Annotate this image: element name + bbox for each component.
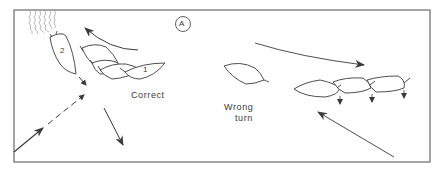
curved-arrow-top-right: [255, 43, 364, 65]
sailing-diagram-panel: A 2 1 Correct Wrong turn: [0, 0, 444, 172]
boat-wrong-single: [224, 63, 269, 84]
boat-sequence-wrong: [294, 76, 410, 97]
arrow-boat-2-heading: [79, 77, 86, 85]
label-turn: turn: [235, 113, 253, 123]
panel-label: A: [179, 19, 184, 29]
boat-2-number: 2: [60, 47, 64, 55]
approach-arrow: [14, 95, 84, 152]
diagram-canvas: [0, 0, 444, 172]
long-arrow-up-left: [318, 112, 394, 157]
label-wrong: Wrong: [224, 102, 253, 112]
boat-sequence-correct: [80, 45, 165, 79]
boat-1-number: 1: [143, 66, 147, 74]
exit-arrow-down: [104, 108, 123, 145]
label-correct: Correct: [131, 90, 165, 100]
wake-lines-boat-2: [29, 11, 55, 34]
